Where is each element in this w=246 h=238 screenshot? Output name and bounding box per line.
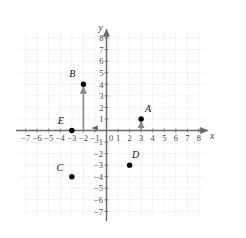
y-tick-label: 4 — [99, 80, 104, 90]
point-label: D — [131, 149, 140, 160]
axes — [16, 29, 208, 221]
point-label: C — [57, 162, 64, 173]
y-tick-label: 7 — [99, 45, 103, 55]
point-label: A — [144, 103, 152, 114]
point-marker — [127, 162, 132, 167]
vector-arrows — [83, 86, 141, 130]
origin-label: 0 — [109, 133, 113, 143]
grid-lines — [20, 32, 205, 217]
graph-canvas: −7−6−5−4−3−2−11234567887654321−1−2−3−4−5… — [0, 0, 246, 238]
y-tick-label: −2 — [94, 149, 103, 159]
y-tick-label: −4 — [94, 172, 104, 182]
y-tick-label: −3 — [94, 160, 103, 170]
y-axis-label: y — [98, 23, 104, 33]
x-tick-label: 5 — [162, 133, 166, 143]
plotted-points: ABCDE — [57, 68, 153, 179]
point-label: B — [69, 68, 75, 79]
x-tick-label: −2 — [79, 133, 88, 143]
y-tick-label: −6 — [94, 195, 103, 205]
point-label: E — [57, 115, 64, 126]
x-tick-label: 6 — [174, 133, 178, 143]
point-marker — [69, 128, 74, 133]
y-tick-label: 1 — [99, 114, 103, 124]
y-tick-label: −5 — [94, 183, 103, 193]
x-tick-label: 7 — [185, 133, 189, 143]
point-marker — [138, 116, 143, 121]
x-tick-label: −3 — [67, 133, 76, 143]
y-tick-label: 8 — [99, 33, 103, 43]
coordinate-plane: −7−6−5−4−3−2−11234567887654321−1−2−3−4−5… — [0, 0, 246, 238]
x-tick-label: 1 — [116, 133, 120, 143]
y-tick-label: 5 — [99, 68, 103, 78]
x-tick-label: 4 — [151, 133, 156, 143]
x-tick-label: −5 — [44, 133, 53, 143]
y-tick-label: 6 — [99, 56, 103, 66]
y-tick-label: 3 — [99, 91, 103, 101]
x-tick-label: 8 — [197, 133, 201, 143]
x-axis-label: x — [209, 131, 215, 141]
y-tick-label: 2 — [99, 103, 103, 113]
point-marker — [81, 82, 86, 87]
y-tick-label: −7 — [94, 207, 103, 217]
x-tick-label: 3 — [139, 133, 143, 143]
x-tick-label: −7 — [21, 133, 30, 143]
point-marker — [69, 174, 74, 179]
x-tick-label: 2 — [127, 133, 131, 143]
x-tick-label: −4 — [56, 133, 66, 143]
x-tick-label: −6 — [33, 133, 42, 143]
y-tick-label: −1 — [94, 137, 103, 147]
